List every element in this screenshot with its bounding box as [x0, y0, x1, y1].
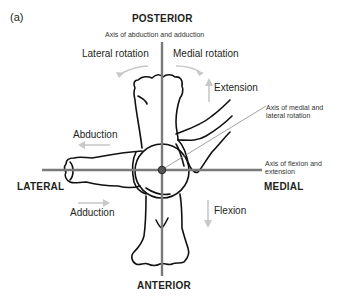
- abduction-label: Abduction: [73, 130, 117, 140]
- center-point: [158, 166, 166, 174]
- adduction-label: Adduction: [70, 208, 114, 218]
- abduction-axis-label: Axis of abduction and adduction: [105, 31, 204, 39]
- rotation-axis-line2: lateral rotation: [266, 112, 323, 120]
- flexion-label: Flexion: [214, 206, 246, 216]
- lateral-rotation-label: Lateral rotation: [82, 49, 149, 59]
- flexion-axis-line2: extension: [265, 168, 322, 176]
- extension-label: Extension: [214, 83, 258, 93]
- lateral-rotation-arrow: [120, 66, 148, 74]
- panel-label: (a): [10, 12, 23, 23]
- flexion-axis-label: Axis of flexion and extension: [265, 160, 322, 176]
- rotation-axis-label: Axis of medial and lateral rotation: [266, 104, 323, 120]
- medial-rotation-arrow: [176, 66, 200, 72]
- posterior-label: POSTERIOR: [132, 14, 193, 24]
- lateral-label: LATERAL: [17, 182, 64, 192]
- medial-label: MEDIAL: [264, 182, 304, 192]
- medial-rotation-label: Medial rotation: [173, 49, 239, 59]
- movement-arrows: [78, 66, 209, 222]
- rotation-axis-line1: Axis of medial and: [266, 104, 323, 112]
- joint-diagram: [0, 0, 343, 306]
- anterior-label: ANTERIOR: [137, 281, 191, 291]
- flexion-axis-line1: Axis of flexion and: [265, 160, 322, 168]
